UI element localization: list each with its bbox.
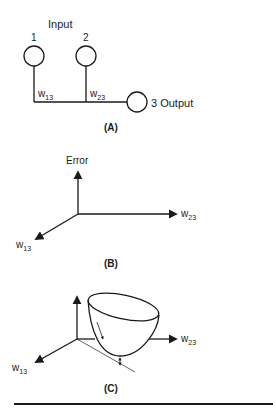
input-node-2 — [76, 46, 96, 66]
w23-axis-label: w23 — [180, 208, 196, 221]
node-1-label: 1 — [31, 32, 37, 43]
w23-axis-label-c: w23 — [180, 333, 196, 346]
output-label: 3 Output — [151, 97, 193, 109]
panel-a-network: Input 1 2 w13 w23 3 Output (A) — [24, 18, 193, 133]
panel-c-error-surface: w23 w13 (C) — [11, 288, 196, 394]
w13-axis-label-c: w13 — [11, 362, 27, 375]
caption-b: (B) — [104, 258, 118, 269]
output-node-3 — [127, 92, 147, 112]
caption-c: (C) — [104, 383, 118, 394]
caption-a: (A) — [104, 122, 118, 133]
neural-network-error-surface-figure: Input 1 2 w13 w23 3 Output (A) Error w23… — [0, 0, 276, 413]
weight-w23-label: w23 — [89, 88, 105, 101]
w13-axis-label: w13 — [15, 239, 31, 252]
error-axis-label: Error — [66, 155, 89, 166]
w13-axis — [36, 214, 78, 239]
input-label: Input — [48, 18, 72, 30]
input-node-1 — [24, 46, 44, 66]
node-2-label: 2 — [83, 32, 89, 43]
weight-w13-label: w13 — [37, 88, 53, 101]
w13-axis-c — [36, 339, 77, 362]
panel-b-axes: Error w23 w13 (B) — [15, 155, 196, 269]
